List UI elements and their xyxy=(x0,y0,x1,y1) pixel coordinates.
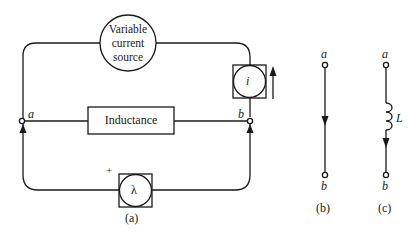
inductance-label: Inductance xyxy=(88,114,174,126)
current-meter-symbol: i xyxy=(246,75,249,87)
caption-a: (a) xyxy=(125,212,138,224)
inductor-label: L xyxy=(396,112,403,124)
panel-c-node-b-label: b xyxy=(382,180,388,192)
source-label: Variable current source xyxy=(100,22,156,64)
node-b xyxy=(247,118,252,123)
circuit-drawing xyxy=(0,0,419,234)
panel-c-node-a xyxy=(383,62,388,67)
node-b-label: b xyxy=(238,108,244,120)
panel-c-node-a-label: a xyxy=(382,48,388,60)
panel-b-node-b-label: b xyxy=(321,180,327,192)
inductor-coil xyxy=(386,103,392,130)
source-label-line-2: current xyxy=(100,36,156,50)
flux-meter-symbol: λ xyxy=(131,184,137,196)
flux-meter-polarity: + xyxy=(106,165,112,176)
top-right-wire xyxy=(156,43,250,65)
current-meter-circle xyxy=(234,66,266,98)
panel-b-node-a xyxy=(322,62,327,67)
panel-b-node-a-label: a xyxy=(321,48,327,60)
source-label-line-3: source xyxy=(100,50,156,64)
node-a-label: a xyxy=(28,108,34,120)
source-label-line-1: Variable xyxy=(100,22,156,36)
panel-b-node-b xyxy=(322,172,327,177)
caption-c: (c) xyxy=(378,202,391,214)
panel-c-node-b xyxy=(383,172,388,177)
circuit-figure: Variable current source Inductance i λ +… xyxy=(0,0,419,234)
caption-b: (b) xyxy=(316,202,330,214)
node-a xyxy=(19,118,24,123)
